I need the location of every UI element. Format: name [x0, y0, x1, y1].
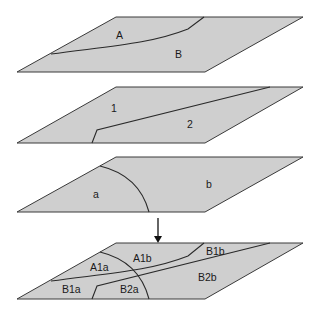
region-label: B1a — [62, 283, 81, 295]
down-arrow-icon — [154, 218, 162, 243]
diagram-canvas: A B 1 2 a b A1a A1b B1b B1a B2a B2b — [0, 0, 318, 318]
region-label: b — [206, 178, 212, 190]
region-label: 2 — [187, 118, 193, 130]
region-label: A1a — [90, 261, 109, 273]
layer-1-plane: A B — [17, 17, 303, 72]
region-label: B — [175, 48, 182, 60]
region-label: A — [116, 29, 123, 41]
region-label: 1 — [111, 102, 117, 114]
region-label: B2b — [198, 271, 217, 283]
layer-3-plane: a b — [17, 157, 303, 212]
region-label: B2a — [120, 283, 139, 295]
region-label: B1b — [206, 245, 225, 257]
overlay-result-plane: A1a A1b B1b B1a B2a B2b — [17, 243, 303, 299]
layer-2-plane: 1 2 — [17, 87, 303, 143]
region-label: a — [93, 188, 99, 200]
region-label: A1b — [133, 252, 152, 264]
